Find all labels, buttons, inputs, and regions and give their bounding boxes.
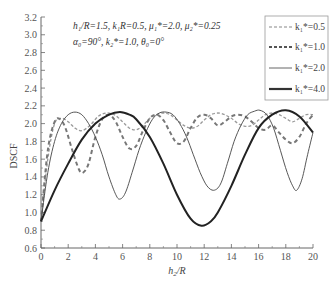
y-tick-label: 1.8 [25, 136, 38, 147]
y-tick-label: 3.2 [25, 12, 38, 23]
y-tick-label: 0.6 [25, 243, 38, 254]
y-tick-label: 1.0 [25, 207, 38, 218]
legend-label-k05: k₁*=0.5 [295, 22, 325, 32]
y-tick-label: 1.6 [25, 154, 38, 165]
curves [41, 110, 313, 226]
x-tick-label: 6 [120, 251, 125, 262]
x-tick-label: 4 [93, 251, 98, 262]
y-axis-title: DSCF [8, 143, 19, 168]
x-tick-label: 10 [172, 251, 182, 262]
annotation-line-2: α₀=90°, k₂*=1.0, θ₀=0° [73, 37, 164, 47]
y-tick-label: 3.0 [25, 29, 38, 40]
x-tick-label: 2 [66, 251, 71, 262]
y-tick-label: 2.2 [25, 100, 38, 111]
series-line-3 [41, 110, 313, 226]
y-tick-label: 2.0 [25, 118, 38, 129]
x-tick-label: 18 [281, 251, 291, 262]
y-tick-label: 2.4 [25, 83, 38, 94]
y-tick-label: 0.8 [25, 225, 38, 236]
legend-label-k20: k₁*=2.0 [295, 63, 325, 73]
y-tick-label: 1.4 [25, 171, 38, 182]
annotation-line-1: h₁/R=1.5, k₁R=0.5, μ₁*=2.0, μ₂*=0.25 [73, 21, 221, 31]
legend-label-k10: k₁*=1.0 [295, 42, 325, 52]
x-tick-label: 16 [254, 251, 264, 262]
x-tick-label: 8 [147, 251, 152, 262]
y-tick-label: 1.2 [25, 189, 38, 200]
dscf-chart: 0.60.81.01.21.41.61.82.02.22.42.62.83.03… [0, 0, 334, 281]
legend: k₁*=0.5 k₁*=1.0 k₁*=2.0 k₁*=4.0 [265, 16, 328, 100]
x-tick-label: 20 [308, 251, 318, 262]
x-tick-label: 12 [199, 251, 209, 262]
x-axis-title: h2/R [168, 265, 185, 278]
legend-label-k40: k₁*=4.0 [295, 84, 325, 94]
x-tick-label: 0 [39, 251, 44, 262]
y-tick-label: 2.8 [25, 47, 38, 58]
y-tick-label: 2.6 [25, 65, 38, 76]
series-line-0 [41, 113, 313, 221]
series-line-2 [41, 110, 313, 221]
x-tick-label: 14 [226, 251, 236, 262]
